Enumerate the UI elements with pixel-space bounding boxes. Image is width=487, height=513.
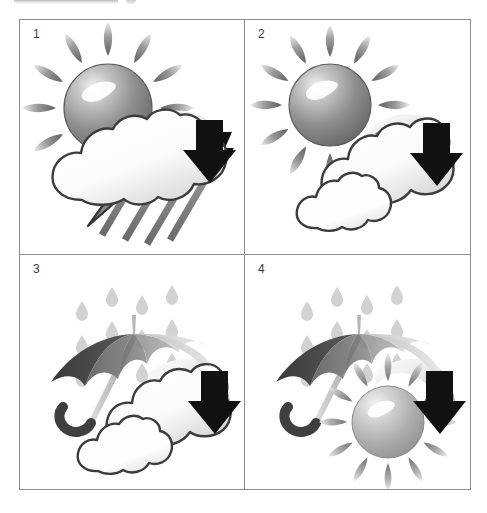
weather-illustration-2 <box>245 20 470 254</box>
weather-illustration-1 <box>20 20 244 254</box>
sun-icon <box>352 386 424 458</box>
weather-icon-grid: 1 <box>19 19 471 490</box>
umbrella-icon <box>276 315 448 401</box>
cropped-toolbar-strip <box>14 0 118 4</box>
grid-cell-2[interactable]: 2 <box>245 20 470 255</box>
weather-illustration-4 <box>245 255 470 490</box>
grid-cell-1[interactable]: 1 <box>20 20 245 255</box>
cropped-toolbar-badge <box>126 0 136 4</box>
cloud-small-icon <box>297 173 391 231</box>
grid-cell-3[interactable]: 3 <box>20 255 245 490</box>
grid-cell-4[interactable]: 4 <box>245 255 470 490</box>
weather-illustration-3 <box>20 255 244 490</box>
sun-icon <box>289 64 371 146</box>
